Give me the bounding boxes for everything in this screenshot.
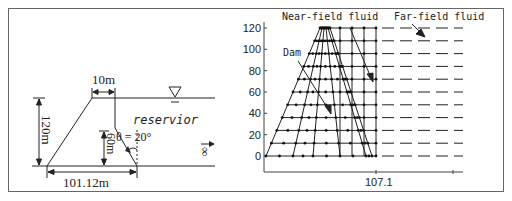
dam-arrow-icon bbox=[325, 105, 331, 114]
dam-label: Dam bbox=[283, 47, 301, 58]
dam-mesh bbox=[265, 27, 378, 158]
angle-label: θ = 20° bbox=[116, 130, 152, 144]
near-field-label: Near-field fluid bbox=[282, 11, 378, 22]
far-field-arrow-icon bbox=[416, 29, 425, 37]
y-tick-label: 120 bbox=[243, 22, 261, 34]
annotation-arrows bbox=[298, 24, 425, 114]
y-tick-labels: 0 20 40 60 80 100 120 bbox=[243, 22, 261, 162]
infinity-label: ∞ bbox=[198, 147, 213, 156]
dim-base-width-label: 101.12m bbox=[63, 175, 109, 190]
y-tick-label: 40 bbox=[249, 107, 261, 119]
y-tick-label: 20 bbox=[249, 129, 261, 141]
figure: 10m 120m 60m 101.12m reservior θ = 20° bbox=[0, 0, 512, 201]
y-tick-label: 60 bbox=[249, 86, 261, 98]
y-tick-label: 0 bbox=[255, 150, 261, 162]
dim-top-width-label: 10m bbox=[92, 72, 115, 87]
far-field-dashes bbox=[382, 28, 463, 156]
water-level-icon bbox=[169, 87, 181, 102]
far-field-label: Far-field fluid bbox=[394, 11, 484, 22]
near-field-arrow-icon bbox=[367, 73, 373, 82]
y-tick-label: 80 bbox=[249, 65, 261, 77]
reservoir-label: reservior bbox=[133, 113, 199, 127]
x-tick-label: 107.1 bbox=[365, 176, 393, 188]
y-tick-label: 100 bbox=[243, 43, 261, 55]
dim-height-label: 120m bbox=[39, 115, 54, 145]
mesh-plot: 0 20 40 60 80 100 120 107.1 Near-field f… bbox=[243, 11, 485, 188]
figure-frame bbox=[9, 9, 504, 192]
dim-top-width bbox=[92, 88, 115, 98]
